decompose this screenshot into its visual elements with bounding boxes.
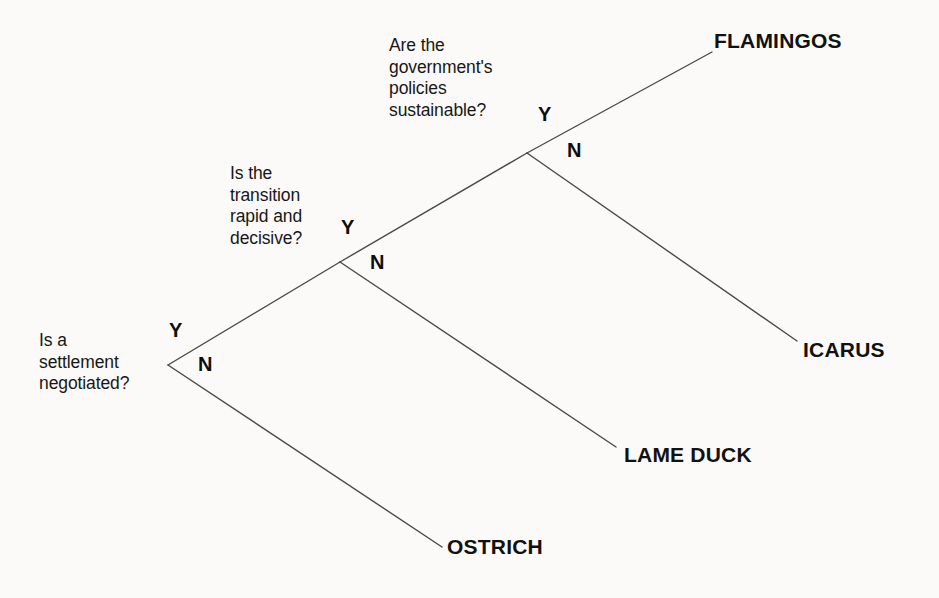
question-node-government-policies-sustainable: Are the government's policies sustainabl… — [389, 35, 492, 121]
edge-node2-no-to-lame-duck — [340, 262, 616, 447]
edge-node3-yes-to-flamingos — [527, 52, 712, 153]
question-node-settlement-negotiated: Is a settlement negotiated? — [39, 330, 129, 395]
outcome-ostrich: OSTRICH — [447, 536, 543, 557]
outcome-flamingos: FLAMINGOS — [714, 30, 842, 51]
decision-tree-diagram: Is a settlement negotiated? Y N Is the t… — [0, 0, 939, 598]
outcome-lame-duck: LAME DUCK — [624, 444, 752, 465]
branch-label-node3-yes: Y — [538, 104, 551, 124]
branch-label-node2-yes: Y — [341, 217, 354, 237]
outcome-icarus: ICARUS — [803, 339, 885, 360]
branch-label-node2-no: N — [370, 252, 384, 272]
edge-node3-no-to-icarus — [527, 153, 797, 341]
branch-label-node1-no: N — [198, 354, 212, 374]
question-node-transition-rapid-decisive: Is the transition rapid and decisive? — [230, 163, 302, 249]
edge-node1-yes-to-node2 — [168, 262, 340, 365]
branch-label-node1-yes: Y — [169, 320, 182, 340]
edge-node1-no-to-ostrich — [168, 365, 442, 547]
branch-label-node3-no: N — [567, 140, 581, 160]
edge-node2-yes-to-node3 — [340, 153, 527, 262]
